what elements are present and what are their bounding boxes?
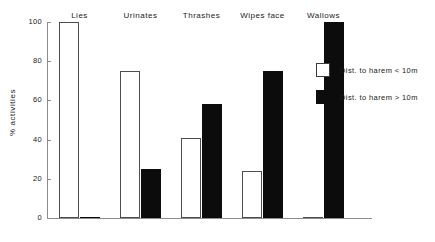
bar-chart-figure: % activities 020406080100 LiesUrinatesTh…: [0, 0, 435, 242]
bar-far: [141, 169, 161, 218]
y-axis-label: % activities: [8, 68, 17, 158]
y-axis-tick-label: 60: [8, 95, 42, 104]
bar-group: Thrashes: [178, 22, 225, 218]
bar-near: [303, 217, 323, 218]
y-axis-tick-label: 0: [8, 213, 42, 222]
bar-group: Wallows: [300, 22, 347, 218]
bar-near: [120, 71, 140, 218]
plot-area: LiesUrinatesThrashesWipes faceWallows: [48, 22, 372, 218]
legend-label: Dist. to harem > 10m: [340, 93, 418, 102]
legend-item: Dist. to harem < 10m: [316, 63, 418, 77]
bar-group: Lies: [56, 22, 103, 218]
bar-far: [80, 217, 100, 218]
y-axis-tick: [47, 218, 51, 219]
category-label: Thrashes: [178, 11, 225, 20]
bar-near: [59, 22, 79, 218]
y-axis-tick-label: 100: [8, 17, 42, 26]
bar-near: [242, 171, 262, 218]
bar-far: [263, 71, 283, 218]
bar-near: [181, 138, 201, 218]
bar-group: Urinates: [117, 22, 164, 218]
category-label: Lies: [56, 11, 103, 20]
bar-far: [202, 104, 222, 218]
filled-square-swatch: [316, 90, 330, 104]
category-label: Urinates: [117, 11, 164, 20]
y-axis-tick-label: 80: [8, 56, 42, 65]
legend-label: Dist. to harem < 10m: [340, 66, 418, 75]
bar-group: Wipes face: [239, 22, 286, 218]
x-axis-line: [47, 218, 372, 219]
bar-far: [324, 22, 344, 218]
y-axis-tick-label: 40: [8, 135, 42, 144]
category-label: Wipes face: [239, 11, 286, 20]
open-square-swatch: [316, 63, 330, 77]
category-label: Wallows: [300, 11, 347, 20]
chart-legend: Dist. to harem < 10mDist. to harem > 10m: [316, 63, 418, 117]
legend-item: Dist. to harem > 10m: [316, 90, 418, 104]
y-axis-tick-label: 20: [8, 174, 42, 183]
